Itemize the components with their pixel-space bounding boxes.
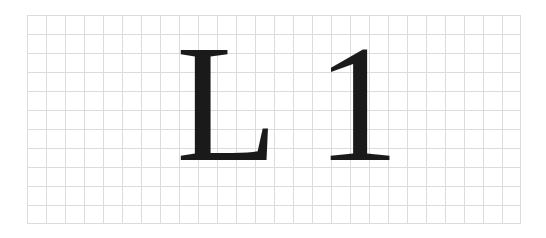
glyph-digit-one: 1 bbox=[316, 20, 400, 187]
glyph-letter-l: L bbox=[176, 20, 278, 187]
